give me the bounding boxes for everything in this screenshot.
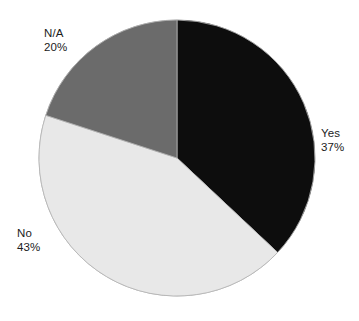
slice-label-na: N/A 20%	[44, 26, 67, 54]
slice-label-yes: Yes 37%	[321, 126, 344, 154]
slice-label-no-value: 43%	[17, 240, 40, 254]
slice-label-no-name: No	[17, 226, 40, 240]
slice-label-no: No 43%	[17, 226, 40, 254]
slice-label-na-name: N/A	[44, 26, 67, 40]
slice-label-yes-value: 37%	[321, 140, 344, 154]
pie-chart: N/A 20% Yes 37% No 43%	[0, 0, 359, 321]
slice-label-yes-name: Yes	[321, 126, 344, 140]
slice-label-na-value: 20%	[44, 40, 67, 54]
pie-slice-group	[39, 20, 315, 296]
